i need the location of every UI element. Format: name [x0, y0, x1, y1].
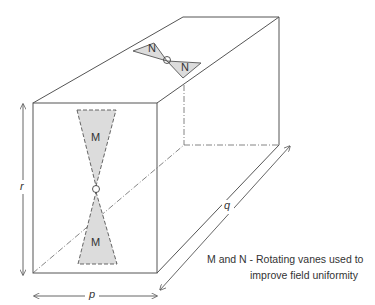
hidden-edges [33, 85, 279, 273]
vane-n-label-right: N [181, 61, 189, 73]
vane-n [133, 43, 201, 78]
dim-p-label: p [89, 288, 95, 300]
dim-q-label: q [224, 199, 230, 211]
dim-r-label: r [20, 180, 24, 192]
legend-line-2: improve field uniformity [207, 267, 363, 283]
legend-note: M and N - Rotating vanes used to improve… [207, 251, 363, 283]
vane-n-label-left: N [148, 42, 156, 54]
legend-line-1: M and N - Rotating vanes used to [207, 251, 363, 267]
vane-m-label-top: M [91, 131, 100, 143]
vane-m-label-bottom: M [91, 236, 100, 248]
